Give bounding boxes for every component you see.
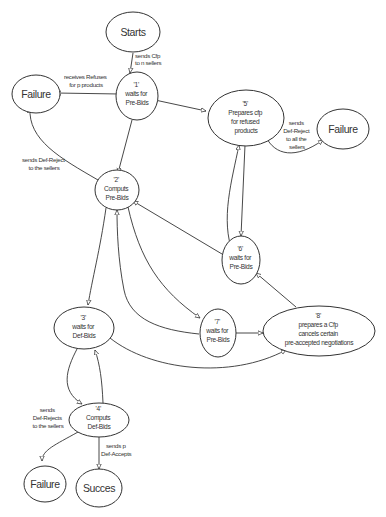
svg-text:Succes: Succes [83, 482, 115, 494]
label-start-to-1: sends Cfp to n sellers [135, 52, 162, 66]
edge-4-to-3 [95, 350, 103, 403]
edge-6-to-2 [133, 201, 222, 254]
label-2-to-failure: sends Def-Reject to the sellers [22, 156, 66, 171]
node-state-8: '8' prepares a Cfp cancels certain pre-a… [263, 306, 375, 356]
node-state-2: '2' Computs Pre-Bids [95, 170, 139, 210]
node-state-7: '7' waits for Pre-Bids [200, 309, 236, 357]
edge-3-to-4 [67, 349, 82, 404]
node-state-3: '3' waits for Def-Bids [54, 307, 114, 349]
edge-2-to-3 [88, 208, 106, 305]
node-state-5: '5' Prepares cfp for refused products [208, 90, 284, 146]
node-failure-bottom: Failure [24, 466, 66, 502]
edge-1-to-5 [155, 100, 206, 111]
node-starts: Starts [106, 12, 160, 52]
edge-8-to-6 [256, 273, 296, 307]
svg-text:Starts: Starts [120, 26, 145, 38]
node-state-1: '1' waits for Pre-Bids [116, 72, 158, 120]
state-diagram: sends Cfp to n sellers receives Refuses … [0, 0, 386, 517]
edge-2-to-7 [128, 207, 200, 318]
edge-1-to-2 [118, 120, 132, 173]
label-4-to-failure: sends Def-Rejects to the sellers [33, 406, 64, 429]
edge-4-to-failure [42, 432, 78, 461]
svg-text:Failure: Failure [30, 478, 60, 490]
edge-1-to-failure [56, 93, 120, 94]
label-4-to-succes: sends p Def-Accepts [101, 442, 132, 457]
label-5-to-failure: sends Def-Reject to all the sellers [283, 119, 311, 150]
node-state-6: '6' waits for Pre-Bids [222, 236, 260, 284]
label-1-to-failure: receives Refuses for p products [64, 73, 108, 88]
node-state-4: '4' Computs Def-Bids [69, 403, 129, 437]
edge-7-to-2 [117, 210, 199, 334]
edge-3-to-8 [110, 338, 286, 368]
edge-start-to-1 [130, 53, 133, 73]
svg-text:Failure: Failure [328, 123, 358, 135]
node-failure-top: Failure [12, 75, 60, 113]
edge-labels: sends Cfp to n sellers receives Refuses … [0, 0, 311, 457]
node-succes: Succes [76, 469, 122, 507]
edge-5-to-6 [241, 145, 245, 236]
svg-text:Failure: Failure [21, 88, 51, 100]
node-failure-right: Failure [317, 109, 369, 149]
